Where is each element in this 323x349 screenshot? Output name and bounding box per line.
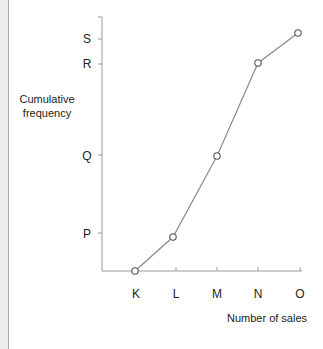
data-point-n	[255, 60, 261, 66]
cumulative-frequency-line	[135, 33, 298, 271]
chart: S R Q P K L M N O Cumulative frequency N…	[0, 0, 323, 349]
x-tick-label-m: M	[212, 287, 222, 301]
x-tick-label-n: N	[254, 287, 263, 301]
x-axis-title: Number of sales	[227, 312, 308, 324]
x-tick-label-o: O	[295, 287, 304, 301]
data-point-l	[170, 234, 176, 240]
y-tick-label-r: R	[83, 57, 92, 71]
data-point-k	[132, 268, 138, 274]
x-tick-label-k: K	[132, 287, 140, 301]
y-tick-label-s: S	[83, 32, 91, 46]
y-axis-title-line2: frequency	[23, 107, 72, 119]
x-tick-label-l: L	[173, 287, 180, 301]
y-axis-title-line1: Cumulative	[19, 93, 74, 105]
data-point-m	[214, 153, 220, 159]
data-point-o	[295, 30, 301, 36]
y-tick-label-p: P	[83, 227, 91, 241]
y-tick-label-q: Q	[82, 149, 91, 163]
